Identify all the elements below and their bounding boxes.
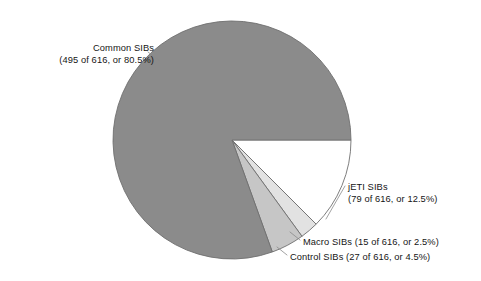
slice-label-macro-text: Macro SIBs (15 of 616, or 2.5%): [303, 236, 439, 248]
slice-label-common-detail: (495 of 616, or 80.5%): [14, 54, 154, 66]
slice-label-control-text: Control SIBs (27 of 616, or 4.5%): [290, 251, 430, 263]
slice-label-common-name: Common SIBs: [14, 42, 154, 54]
slice-label-jeti-name: jETI SIBs: [348, 181, 437, 193]
slice-label-jeti-detail: (79 of 616, or 12.5%): [348, 193, 437, 205]
slice-label-control: Control SIBs (27 of 616, or 4.5%): [290, 251, 430, 263]
slice-label-common: Common SIBs (495 of 616, or 80.5%): [14, 42, 154, 66]
slice-label-jeti: jETI SIBs (79 of 616, or 12.5%): [348, 181, 437, 205]
pie-chart-figure: Common SIBs (495 of 616, or 80.5%) jETI …: [0, 0, 481, 281]
slice-label-macro: Macro SIBs (15 of 616, or 2.5%): [303, 236, 439, 248]
